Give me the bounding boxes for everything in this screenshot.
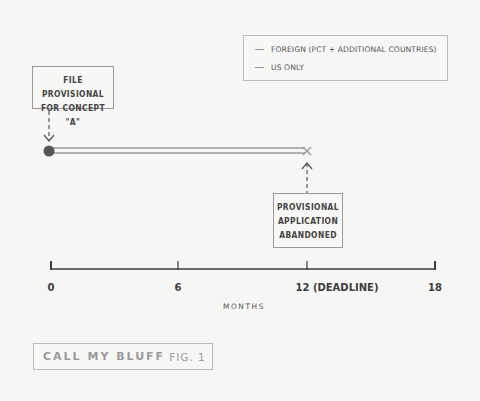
tick-label-0: 0	[48, 282, 55, 293]
title-strong: CALL MY BLUFF	[43, 350, 165, 363]
months-axis	[51, 261, 435, 270]
end-x-icon	[303, 147, 311, 155]
tick-label-18: 18	[428, 282, 442, 293]
us-only-bar	[49, 148, 305, 153]
timeline-graphic	[0, 0, 480, 401]
start-dot-icon	[44, 146, 55, 157]
tick-label-12-deadline: 12 (DEADLINE)	[295, 282, 378, 293]
title-fig: FIG. 1	[169, 351, 206, 363]
tick-label-6: 6	[175, 282, 182, 293]
figure-title: CALL MY BLUFF FIG. 1	[33, 343, 213, 370]
axis-label: MONTHS	[223, 302, 265, 311]
down-arrow-icon	[44, 111, 54, 141]
up-arrow-icon	[302, 163, 312, 193]
